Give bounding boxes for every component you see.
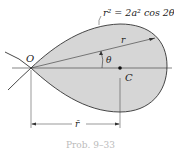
centroid-point [118, 66, 122, 70]
figure-caption: Prob. 9–33 [66, 140, 115, 149]
centroid-label: C [125, 72, 133, 83]
dim-arrow-left [31, 123, 36, 126]
angle-label: θ [106, 55, 112, 65]
origin-label: O [26, 53, 34, 64]
lemniscate-diagram: r² = 2a² cos 2θ O r θ C r̄ Prob. 9–33 [0, 0, 174, 149]
dim-arrow-right [115, 123, 120, 126]
radius-label: r [121, 35, 126, 45]
equation-leader [99, 16, 101, 25]
rbar-label: r̄ [75, 119, 80, 129]
equation-label: r² = 2a² cos 2θ [103, 7, 174, 18]
